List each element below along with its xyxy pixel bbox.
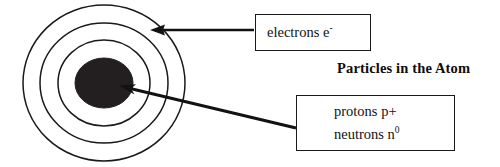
electrons-label: electrons e- [267, 25, 370, 40]
protons-label: protons p+ [334, 104, 454, 119]
electrons-charge-superscript: - [329, 22, 332, 33]
nucleus-arrow [119, 84, 296, 128]
nucleus-icon [75, 58, 133, 108]
nucleus-callout-box[interactable]: protons p+ neutrons n0 [296, 95, 455, 151]
page-title: Particles in the Atom [337, 60, 470, 77]
neutrons-charge-superscript: 0 [395, 124, 400, 135]
electrons-label-text: electrons e [267, 24, 329, 40]
neutrons-label: neutrons n0 [334, 127, 454, 142]
electrons-arrow [150, 25, 254, 36]
protons-label-text: protons p+ [334, 103, 397, 119]
electrons-callout-box[interactable]: electrons e- [255, 14, 371, 51]
atom-diagram-figure: electrons e- protons p+ neutrons n0 Part… [0, 0, 500, 167]
neutrons-label-text: neutrons n [334, 126, 395, 142]
